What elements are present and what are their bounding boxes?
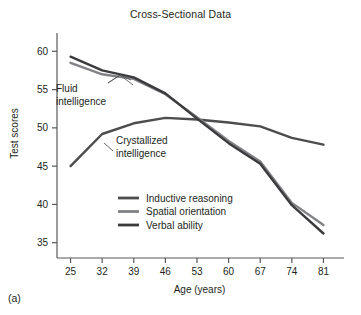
annotation-fluid-line2: intelligence	[56, 96, 106, 107]
line-chart: 354045505560 253239465360677481 Fluid in…	[0, 0, 361, 315]
y-tick-label: 55	[37, 84, 49, 95]
chart-legend: Inductive reasoningSpatial orientationVe…	[118, 193, 233, 231]
x-tick-label: 32	[97, 266, 109, 277]
annotation-crystallized-line2: intelligence	[116, 148, 166, 159]
legend-label: Spatial orientation	[146, 206, 226, 217]
y-tick-label: 35	[37, 237, 49, 248]
annotation-crystallized-intelligence: Crystallized intelligence	[116, 135, 168, 159]
y-tick-label: 50	[37, 122, 49, 133]
x-tick-label: 81	[318, 266, 330, 277]
x-tick-label: 67	[255, 266, 267, 277]
annotation-crystallized-line1: Crystallized	[116, 135, 168, 146]
annotation-fluid-intelligence: Fluid intelligence	[56, 83, 106, 107]
legend-label: Inductive reasoning	[146, 193, 233, 204]
x-tick-label: 60	[223, 266, 235, 277]
x-tick-group: 253239465360677481	[65, 258, 329, 277]
x-tick-label: 74	[286, 266, 298, 277]
y-tick-group: 354045505560	[37, 46, 57, 248]
y-tick-label: 40	[37, 199, 49, 210]
y-tick-label: 60	[37, 46, 49, 57]
x-tick-label: 39	[128, 266, 140, 277]
panel-label: (a)	[8, 292, 21, 304]
figure-panel: Cross-Sectional Data Test scores Age (ye…	[0, 0, 361, 315]
annotation-fluid-line1: Fluid	[56, 83, 78, 94]
x-tick-label: 53	[191, 266, 203, 277]
series-line	[71, 118, 324, 166]
x-tick-label: 46	[160, 266, 172, 277]
legend-label: Verbal ability	[146, 220, 203, 231]
y-tick-label: 45	[37, 161, 49, 172]
x-tick-label: 25	[65, 266, 77, 277]
